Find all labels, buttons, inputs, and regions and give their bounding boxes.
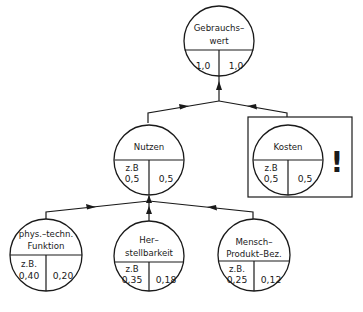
node-label: Gebrauchs– bbox=[194, 23, 245, 33]
arrow-up-icon bbox=[146, 195, 152, 203]
node-mensch-produkt: Mensch– Produkt–Bez. z.B. 0,25 0,12 bbox=[218, 219, 290, 291]
arrow-up-icon bbox=[216, 81, 222, 90]
node-example-label: z.B bbox=[125, 163, 138, 173]
node-left-value: 0,5 bbox=[125, 173, 140, 184]
value-tree-diagram: Gebrauchs– wert 1,0 1,0 Nutzen z.B 0,5 0… bbox=[0, 0, 363, 312]
edge-kosten-root bbox=[219, 101, 287, 117]
node-label: Produkt–Bez. bbox=[226, 249, 282, 259]
node-left-value: 0,5 bbox=[264, 173, 279, 184]
lower-connectors bbox=[46, 195, 253, 221]
node-example-label: z.B. bbox=[21, 259, 37, 269]
edge-mensch-nutzen bbox=[149, 201, 253, 219]
node-right-value: 0,5 bbox=[159, 173, 174, 184]
node-left-value: 0,40 bbox=[19, 270, 40, 281]
node-gebrauchswert: Gebrauchs– wert 1,0 1,0 bbox=[184, 6, 254, 76]
node-left-value: 1,0 bbox=[196, 60, 211, 71]
node-label: phys.–techn. bbox=[19, 229, 74, 239]
arrow-up-icon bbox=[146, 206, 152, 214]
node-right-value: 0,5 bbox=[298, 173, 313, 184]
node-label: Funktion bbox=[28, 241, 65, 251]
node-label: stellbarkeit bbox=[125, 248, 174, 258]
edge-funktion-nutzen bbox=[46, 201, 149, 219]
node-herstellbarkeit: Her– stellbarkeit z.B 0,35 0,18 bbox=[114, 221, 184, 291]
node-label: Nutzen bbox=[134, 142, 165, 152]
node-kosten-highlight-box: Kosten z.B 0,5 0,5 ! bbox=[248, 117, 352, 197]
node-funktion: phys.–techn. Funktion z.B. 0,40 0,20 bbox=[10, 219, 82, 291]
node-right-value: 1,0 bbox=[229, 60, 244, 71]
node-left-value: 0,25 bbox=[227, 274, 248, 285]
node-right-value: 0,12 bbox=[261, 274, 281, 285]
node-label: Her– bbox=[139, 235, 159, 245]
node-nutzen: Nutzen z.B 0,5 0,5 bbox=[114, 125, 184, 195]
node-label: Mensch– bbox=[235, 237, 272, 247]
node-label: wert bbox=[209, 36, 229, 46]
node-right-value: 0,20 bbox=[53, 270, 74, 281]
upper-connectors bbox=[148, 76, 287, 123]
arrow-right-icon bbox=[86, 204, 96, 210]
node-example-label: z.B bbox=[125, 264, 138, 274]
edge-nutzen-root bbox=[148, 101, 219, 123]
node-label: Kosten bbox=[273, 142, 302, 152]
node-right-value: 0,18 bbox=[156, 274, 177, 285]
exclamation-icon: ! bbox=[331, 146, 344, 179]
node-example-label: z.B bbox=[264, 163, 277, 173]
node-example-label: z.B. bbox=[229, 264, 245, 274]
node-left-value: 0,35 bbox=[122, 274, 143, 285]
